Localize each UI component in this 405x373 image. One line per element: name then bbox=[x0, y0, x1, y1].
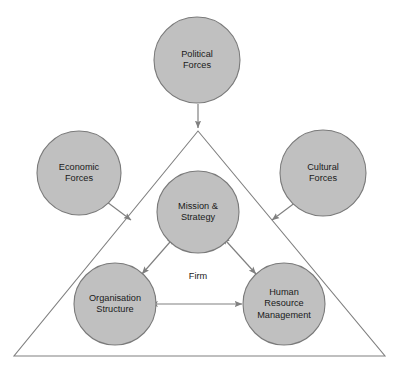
diagram-svg bbox=[0, 0, 405, 373]
arrow-mission-organisation bbox=[142, 242, 170, 274]
node-human-resource-management[interactable] bbox=[243, 263, 325, 345]
arrow-economic-to-firm bbox=[107, 202, 131, 220]
arrow-cultural-to-firm bbox=[272, 202, 296, 220]
node-economic-forces[interactable] bbox=[37, 131, 121, 215]
arrow-mission-hrm bbox=[227, 242, 256, 274]
node-mission-strategy[interactable] bbox=[157, 171, 239, 253]
node-organisation-structure[interactable] bbox=[74, 263, 156, 345]
node-cultural-forces[interactable] bbox=[280, 130, 366, 216]
node-political-forces[interactable] bbox=[154, 17, 240, 103]
diagram-canvas: Political Forces Economic Forces Cultura… bbox=[0, 0, 405, 373]
